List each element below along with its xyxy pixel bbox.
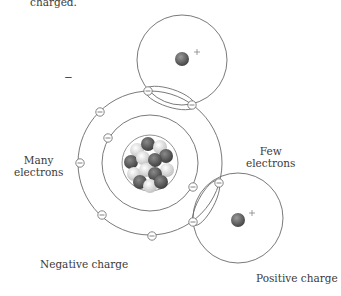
plus-icon xyxy=(249,210,255,216)
electron-icon xyxy=(98,211,106,219)
negative-charge-label: Negative charge xyxy=(40,258,128,270)
many-electrons-line2: electrons xyxy=(14,166,63,178)
electron-icon xyxy=(189,218,197,226)
electron-icon xyxy=(104,134,112,142)
bottom-right-atom xyxy=(193,173,283,263)
plus-icon xyxy=(194,49,200,55)
minus-sign: − xyxy=(64,71,73,83)
top-atom-nucleus xyxy=(175,52,189,66)
electron-icon xyxy=(76,159,84,167)
electron-icon xyxy=(144,87,152,95)
electron-icon xyxy=(96,108,104,116)
few-electrons-line2: electrons xyxy=(246,157,295,169)
electron-icon xyxy=(215,179,223,187)
many-electrons-label: Many electrons xyxy=(14,154,63,178)
bottom-atom-nucleus xyxy=(231,213,245,227)
positive-charge-label: Positive charge xyxy=(256,272,338,284)
few-electrons-label: Few electrons xyxy=(246,145,295,169)
electron-icon xyxy=(189,183,197,191)
electron-icon xyxy=(188,101,196,109)
electron-icon xyxy=(148,232,156,240)
center-nucleus xyxy=(122,135,178,193)
many-electrons-line1: Many xyxy=(14,154,63,166)
few-electrons-line1: Few xyxy=(246,145,295,157)
transfer-orbit-top xyxy=(142,81,197,114)
